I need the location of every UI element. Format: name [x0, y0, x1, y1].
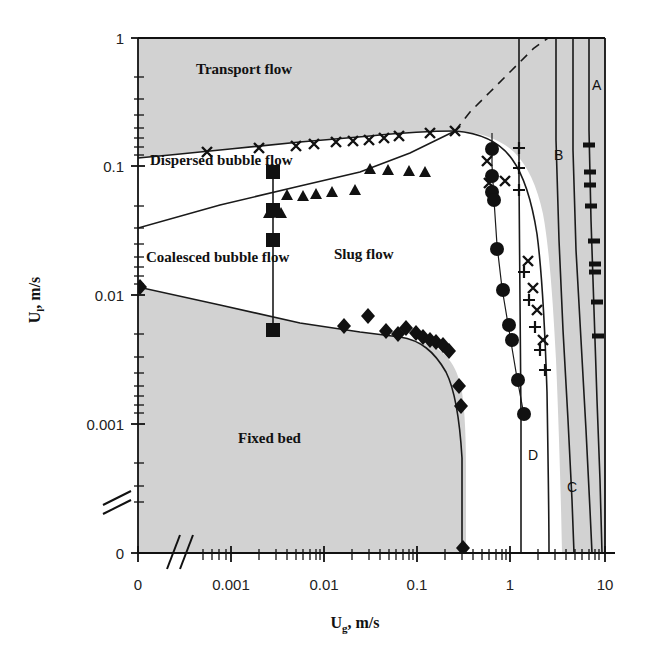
x-axis-title: Ug, m/s — [330, 614, 379, 634]
y-axis-title-base: U — [26, 311, 43, 323]
curve-label-d: D — [528, 447, 538, 463]
x-tick-label-1: 1 — [506, 576, 514, 593]
region-label-coalesced-bubble-flow: Coalesced bubble flow — [146, 249, 290, 265]
x-tick-label-0.1: 0.1 — [407, 576, 428, 593]
y-tick-label-0.001: 0.001 — [86, 416, 124, 433]
region-label-transport-flow: Transport flow — [196, 61, 292, 77]
y-tick-label-0: 0 — [116, 545, 124, 562]
x-tick-label-10: 10 — [597, 576, 614, 593]
region-label-fixed-bed: Fixed bed — [238, 430, 302, 446]
x-tick-label-0.01: 0.01 — [309, 576, 338, 593]
curve-label-c: C — [567, 479, 577, 495]
y-tick-label-0.01: 0.01 — [95, 287, 124, 304]
x-axis-title-base: U — [330, 614, 342, 631]
chart-svg: Transport flow Dispersed bubble flow Coa… — [0, 0, 647, 657]
svg-text:Ug, m/s: Ug, m/s — [330, 614, 379, 634]
x-axis-title-unit: , m/s — [348, 614, 380, 631]
y-tick-label-1: 1 — [116, 30, 124, 47]
y-axis-title-unit: , m/s — [26, 277, 43, 309]
flow-regime-map-figure: Transport flow Dispersed bubble flow Coa… — [0, 0, 647, 657]
y-axis-break-symbol — [103, 491, 131, 514]
region-label-dispersed-bubble-flow: Dispersed bubble flow — [150, 152, 293, 168]
x-tick-label-0: 0 — [134, 576, 142, 593]
curve-label-b: B — [554, 147, 563, 163]
y-tick-label-0.1: 0.1 — [103, 158, 124, 175]
region-label-slug-flow: Slug flow — [334, 246, 394, 262]
curve-label-a: A — [592, 77, 602, 93]
svg-text:Ul, m/s: Ul, m/s — [26, 277, 46, 324]
x-tick-label-0.001: 0.001 — [212, 576, 250, 593]
y-axis-title: Ul, m/s — [26, 277, 46, 324]
